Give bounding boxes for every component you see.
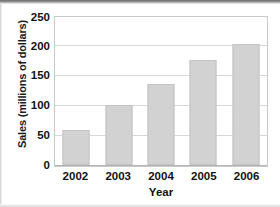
plot-area (54, 16, 268, 167)
y-axis-tick-label: 50 (16, 130, 50, 142)
bar-slot (225, 15, 267, 165)
bar-slot (97, 15, 139, 165)
x-axis-tick-labels: 20022003200420052006 (54, 170, 268, 186)
scan-artifact-left-edge (0, 4, 2, 207)
bar-slot (182, 15, 224, 165)
x-axis-title: Year (54, 186, 268, 198)
bar-slot (140, 15, 182, 165)
x-axis-baseline (55, 165, 267, 166)
bar-chart-screenshot: Sales (millions of dollars) 250 200 150 … (0, 0, 280, 207)
y-axis-tick-label: 150 (16, 70, 50, 82)
bar (105, 105, 132, 165)
y-axis-tick-label: 200 (16, 41, 50, 53)
x-axis-tick-label: 2005 (191, 170, 217, 182)
bar (232, 44, 259, 165)
y-axis-tick-labels: 250 200 150 100 50 0 (16, 0, 50, 207)
bar-slot (55, 15, 97, 165)
x-axis-tick-label: 2006 (234, 170, 260, 182)
y-axis-tick-label: 250 (16, 12, 50, 24)
y-axis-tick-label: 100 (16, 100, 50, 112)
x-axis-tick-label: 2003 (105, 170, 131, 182)
x-axis-tick-label: 2002 (63, 170, 89, 182)
bar (63, 130, 90, 165)
bar-series (55, 15, 267, 165)
bar (190, 60, 217, 165)
x-axis-tick-label: 2004 (148, 170, 174, 182)
bar (147, 84, 174, 165)
y-axis-tick-label: 0 (16, 160, 50, 172)
